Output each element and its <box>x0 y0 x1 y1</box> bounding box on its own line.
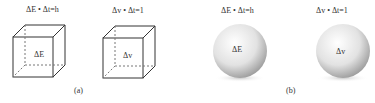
diagram-canvas <box>0 0 375 103</box>
cube1-inner-label: ΔE <box>34 50 44 59</box>
sphere2-inner-label: Δv <box>336 47 345 56</box>
caption-b: (b) <box>286 86 295 95</box>
sphere2-top-label: Δv • Δt=1 <box>316 6 348 15</box>
caption-a: (a) <box>74 86 83 95</box>
sphere1-top-label: ΔE • Δt=h <box>221 6 254 15</box>
cube2-inner-label: Δv <box>123 51 132 60</box>
sphere1-inner-label: ΔE <box>232 45 242 54</box>
cube1-top-label: ΔE • Δt=h <box>26 5 59 14</box>
cube2-top-label: Δv • Δt=1 <box>112 6 144 15</box>
